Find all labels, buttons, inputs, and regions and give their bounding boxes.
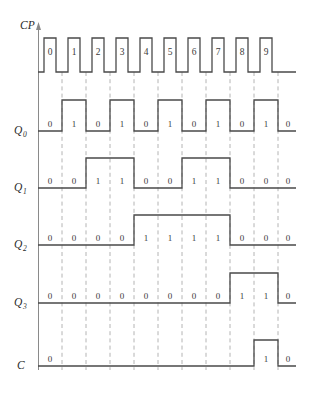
svg-text:1: 1 [144, 233, 149, 243]
svg-text:0: 0 [192, 291, 197, 301]
svg-text:0: 0 [144, 291, 149, 301]
svg-text:1: 1 [216, 119, 221, 129]
svg-text:0: 0 [96, 291, 101, 301]
svg-text:0: 0 [286, 291, 291, 301]
svg-text:0: 0 [96, 233, 101, 243]
signal-label-q0: Q [14, 124, 23, 136]
svg-text:0: 0 [72, 291, 77, 301]
svg-text:1: 1 [72, 119, 77, 129]
svg-text:0: 0 [192, 119, 197, 129]
signal-label-cp: CP [20, 19, 35, 31]
svg-text:0: 0 [240, 233, 245, 243]
svg-text:0: 0 [286, 176, 291, 186]
svg-text:6: 6 [192, 47, 197, 57]
signal-label-q1: Q [14, 181, 23, 193]
signal-label-q2: Q [14, 238, 23, 250]
svg-text:1: 1 [216, 233, 221, 243]
svg-text:0: 0 [240, 119, 245, 129]
svg-text:0: 0 [144, 119, 149, 129]
svg-text:0: 0 [286, 233, 291, 243]
svg-text:0: 0 [48, 47, 53, 57]
svg-text:0: 0 [48, 354, 53, 364]
svg-text:1: 1 [264, 119, 269, 129]
svg-text:1: 1 [264, 291, 269, 301]
svg-text:0: 0 [168, 291, 173, 301]
gridlines [62, 72, 278, 370]
svg-text:0: 0 [72, 176, 77, 186]
svg-text:1: 1 [240, 291, 245, 301]
svg-text:1: 1 [192, 233, 197, 243]
svg-text:2: 2 [96, 47, 101, 57]
timing-diagram-svg: CP 0 1 2 3 4 5 6 7 8 9 Q 0 0 1 0 1 0 1 0… [0, 0, 309, 393]
svg-text:0: 0 [264, 176, 269, 186]
svg-text:0: 0 [264, 233, 269, 243]
svg-text:0: 0 [286, 354, 291, 364]
svg-text:1: 1 [96, 176, 101, 186]
signal-label-c: C [17, 359, 25, 371]
timing-diagram-figure: CP 0 1 2 3 4 5 6 7 8 9 Q 0 0 1 0 1 0 1 0… [0, 0, 309, 393]
svg-text:1: 1 [120, 119, 125, 129]
svg-text:1: 1 [168, 233, 173, 243]
svg-text:0: 0 [48, 119, 53, 129]
signal-subscript-q2: 2 [23, 244, 27, 253]
svg-text:0: 0 [48, 291, 53, 301]
svg-text:5: 5 [168, 47, 173, 57]
signal-subscript-q3: 3 [22, 302, 27, 311]
svg-text:0: 0 [96, 119, 101, 129]
svg-text:1: 1 [264, 354, 269, 364]
svg-text:0: 0 [120, 291, 125, 301]
svg-text:9: 9 [264, 47, 269, 57]
svg-text:0: 0 [48, 233, 53, 243]
axis-arrow-icon [36, 22, 41, 30]
svg-text:0: 0 [240, 176, 245, 186]
svg-text:0: 0 [168, 176, 173, 186]
svg-text:1: 1 [192, 176, 197, 186]
svg-text:0: 0 [286, 119, 291, 129]
svg-text:0: 0 [48, 176, 53, 186]
svg-text:1: 1 [72, 47, 77, 57]
svg-text:8: 8 [240, 47, 245, 57]
signal-label-q3: Q [14, 296, 23, 308]
svg-text:1: 1 [120, 176, 125, 186]
svg-text:0: 0 [72, 233, 77, 243]
signal-subscript-q1: 1 [23, 187, 27, 196]
svg-text:0: 0 [120, 233, 125, 243]
svg-text:4: 4 [144, 47, 149, 57]
waveform-c [38, 340, 296, 366]
svg-text:3: 3 [120, 47, 125, 57]
svg-text:0: 0 [144, 176, 149, 186]
svg-text:0: 0 [216, 291, 221, 301]
signal-subscript-q0: 0 [23, 130, 27, 139]
svg-text:1: 1 [168, 119, 173, 129]
svg-text:7: 7 [216, 47, 221, 57]
svg-text:1: 1 [216, 176, 221, 186]
